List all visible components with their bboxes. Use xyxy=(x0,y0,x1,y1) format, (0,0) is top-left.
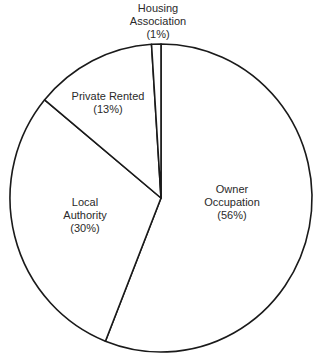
label-line: (13%) xyxy=(72,103,145,116)
label-line: (1%) xyxy=(130,28,186,41)
label-line: Private Rented xyxy=(72,90,145,103)
label-line: (56%) xyxy=(204,209,260,222)
label-line: Owner xyxy=(204,183,260,196)
slice-label-owner-occupation: Owner Occupation (56%) xyxy=(204,183,260,222)
label-line: (30%) xyxy=(63,222,106,235)
label-line: Housing xyxy=(130,2,186,15)
slice-label-private-rented: Private Rented (13%) xyxy=(72,90,145,116)
label-line: Association xyxy=(130,15,186,28)
pie-slices xyxy=(10,44,312,352)
label-line: Local xyxy=(63,196,106,209)
slice-label-local-authority: Local Authority (30%) xyxy=(63,196,106,235)
pie-chart xyxy=(0,0,317,358)
label-line: Occupation xyxy=(204,196,260,209)
slice-label-housing-association: Housing Association (1%) xyxy=(130,2,186,41)
label-line: Authority xyxy=(63,209,106,222)
